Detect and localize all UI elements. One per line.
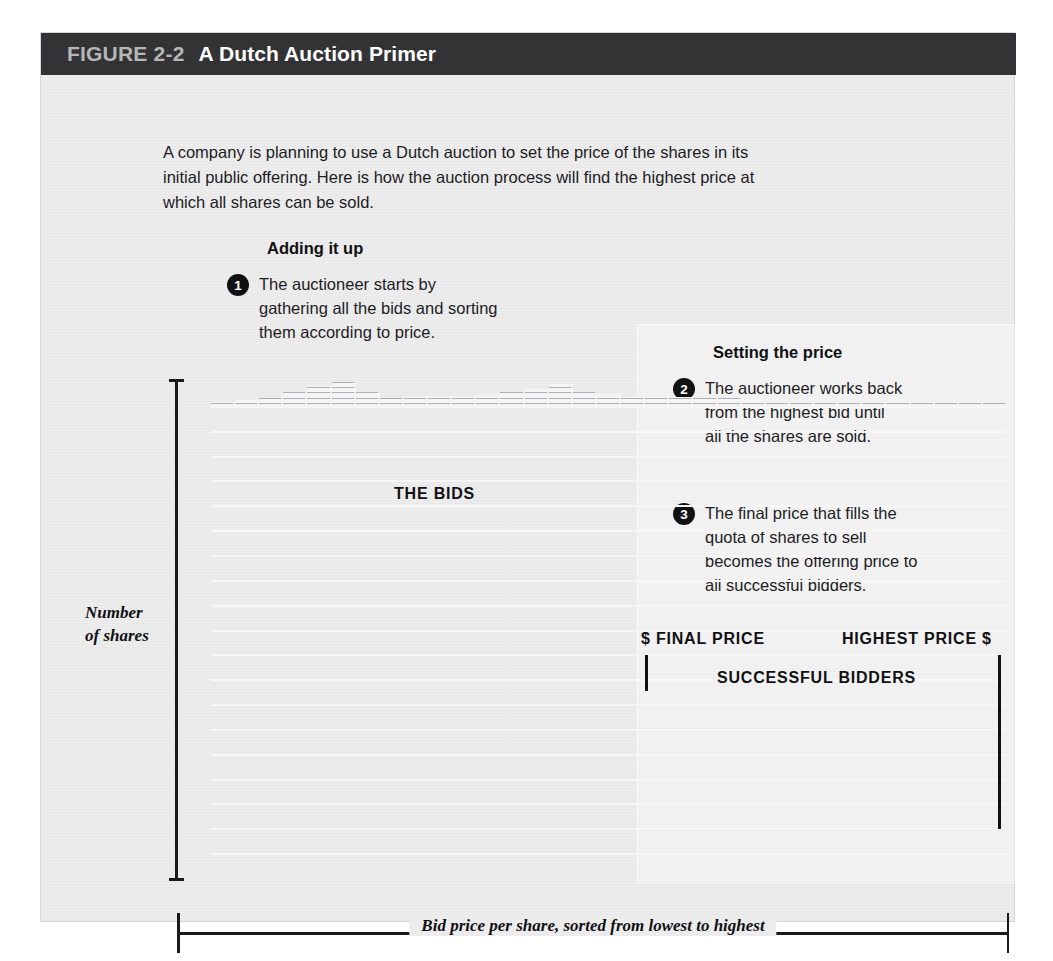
figure-title: A Dutch Auction Primer <box>199 42 437 66</box>
bar-cell <box>211 405 235 406</box>
bar-column <box>790 381 814 406</box>
annotation-successful-bidders: SUCCESSFUL BIDDERS <box>717 669 916 687</box>
y-axis-line <box>175 379 178 881</box>
bar-cell <box>790 405 814 406</box>
bar-column <box>380 381 404 406</box>
bar-column <box>983 381 1007 406</box>
bar-cell <box>814 405 838 406</box>
y-axis-tick-top <box>169 379 184 382</box>
bar-cell <box>332 405 356 406</box>
bar-column <box>886 381 910 406</box>
bar-cell <box>259 405 283 406</box>
bar-column <box>452 381 476 406</box>
bar-cell <box>911 405 935 406</box>
bar-cell <box>838 405 862 406</box>
annotation-highest-price: HIGHEST PRICE $ <box>842 630 992 648</box>
bar-column <box>862 381 886 406</box>
highest-price-pointer-line <box>998 655 1001 829</box>
x-axis-bracket: Bid price per share, sorted from lowest … <box>177 913 1009 953</box>
step-item-1: 1 The auctioneer starts by gathering all… <box>227 272 507 344</box>
bar-cell <box>886 405 910 406</box>
bar-column <box>307 381 331 406</box>
bar-column <box>814 381 838 406</box>
figure-intro-paragraph: A company is planning to use a Dutch auc… <box>163 140 763 215</box>
bar-cell <box>573 405 597 406</box>
bar-column <box>693 381 717 406</box>
bar-cell <box>645 405 669 406</box>
x-axis-cap-left <box>177 913 180 953</box>
bar-cell <box>862 405 886 406</box>
y-axis-tick-bottom <box>169 878 184 881</box>
bar-cell <box>718 405 742 406</box>
bar-cell <box>380 405 404 406</box>
figure-title-bar: FIGURE 2-2 A Dutch Auction Primer <box>41 33 1016 75</box>
bar-column <box>283 381 307 406</box>
bar-column <box>597 381 621 406</box>
bar-cell <box>500 405 524 406</box>
y-axis-label-line-1: Number <box>85 601 171 624</box>
bar-cell <box>959 405 983 406</box>
bar-cell <box>428 405 452 406</box>
bar-cell <box>983 405 1007 406</box>
bar-cell <box>307 405 331 406</box>
bar-cell <box>742 405 766 406</box>
x-axis-cap-right <box>1007 913 1010 953</box>
bar-column <box>332 381 356 406</box>
bar-column <box>500 381 524 406</box>
figure-page: FIGURE 2-2 A Dutch Auction Primer A comp… <box>0 0 1053 961</box>
bar-cell <box>597 405 621 406</box>
bar-column <box>476 381 500 406</box>
bar-cell <box>404 405 428 406</box>
bar-column <box>211 381 235 406</box>
x-axis-label: Bid price per share, sorted from lowest … <box>409 916 776 936</box>
bar-column <box>838 381 862 406</box>
bar-cell <box>621 405 645 406</box>
bar-column <box>549 381 573 406</box>
bar-column <box>428 381 452 406</box>
y-axis-label-line-2: of shares <box>85 624 171 647</box>
bar-column <box>935 381 959 406</box>
bar-column <box>669 381 693 406</box>
bar-column <box>525 381 549 406</box>
bar-column <box>766 381 790 406</box>
bar-column <box>742 381 766 406</box>
final-price-pointer-line <box>645 655 648 691</box>
bar-column <box>356 381 380 406</box>
step-badge-1: 1 <box>227 274 249 296</box>
bar-cell <box>766 405 790 406</box>
figure-card: FIGURE 2-2 A Dutch Auction Primer A comp… <box>40 32 1015 922</box>
y-axis-label: Number of shares <box>85 601 171 647</box>
bar-column <box>645 381 669 406</box>
bar-cell <box>356 405 380 406</box>
bar-cell <box>693 405 717 406</box>
bar-column <box>259 381 283 406</box>
bar-cell <box>235 405 259 406</box>
bar-column <box>404 381 428 406</box>
annotation-final-price: $ FINAL PRICE <box>641 630 765 648</box>
bar-cell <box>525 405 549 406</box>
bar-cell <box>669 405 693 406</box>
bar-column <box>959 381 983 406</box>
bar-column <box>573 381 597 406</box>
bar-cell <box>549 405 573 406</box>
section-heading-setting-the-price: Setting the price <box>713 343 842 362</box>
bar-cell <box>935 405 959 406</box>
bar-column <box>718 381 742 406</box>
y-axis-bracket <box>169 379 183 881</box>
bar-column <box>621 381 645 406</box>
bar-column <box>911 381 935 406</box>
bar-cell <box>476 405 500 406</box>
bar-column <box>235 381 259 406</box>
annotation-the-bids: THE BIDS <box>394 485 475 503</box>
bar-cell <box>452 405 476 406</box>
step-text-1: The auctioneer starts by gathering all t… <box>259 272 507 344</box>
bar-cell <box>283 405 307 406</box>
figure-number-label: FIGURE 2-2 <box>67 42 185 66</box>
section-heading-adding-it-up: Adding it up <box>267 239 363 258</box>
